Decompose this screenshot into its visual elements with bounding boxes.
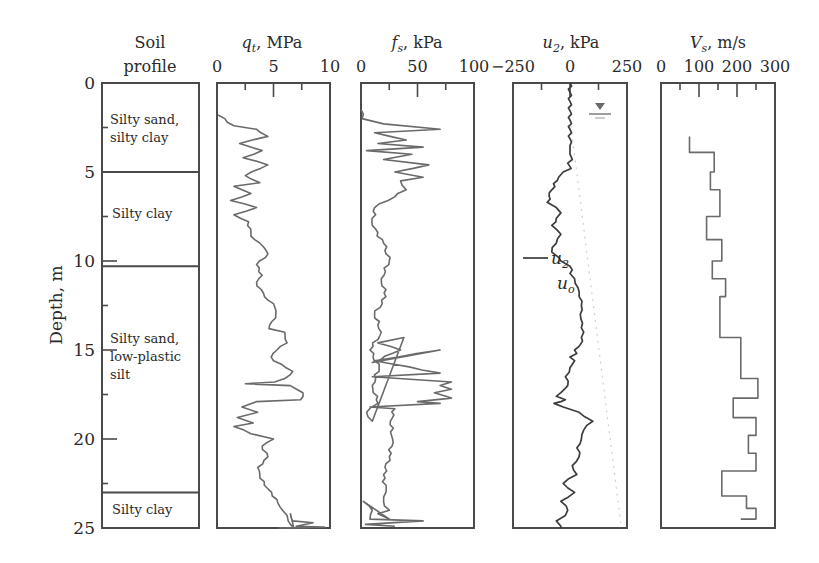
tick-label: 250 <box>612 57 643 76</box>
depth-axis-label: Depth, m <box>46 265 66 344</box>
qt-panel: qt, MPa 0510 <box>212 33 340 528</box>
fs-title: fs, kPa <box>390 33 442 55</box>
soil-layer-label: Silty sand, <box>110 112 179 127</box>
water-table-marker <box>589 103 611 118</box>
water-table-triangle-icon <box>595 103 605 110</box>
soil-layer-label: Silty clay <box>112 502 173 517</box>
vs-frame <box>661 83 775 528</box>
vs-title: Vs, m/s <box>690 33 746 55</box>
tick-label: 50 <box>407 57 427 76</box>
depth-tick-label: 10 <box>73 251 95 271</box>
tick-label: 0 <box>565 57 575 76</box>
u2-trace <box>547 83 593 528</box>
depth-tick-label: 20 <box>73 429 95 449</box>
soil-layer-label: Silty clay <box>112 206 173 221</box>
fs-axis-ticks: 050100 <box>356 57 489 97</box>
u2-legend-label: u2 <box>551 248 569 271</box>
tick-label: 100 <box>684 57 715 76</box>
vs-axis-ticks: 0100200300 <box>656 57 790 97</box>
depth-tick-label: 25 <box>73 518 95 538</box>
soil-profile-frame <box>102 83 199 528</box>
soil-layer-label: low-plastic <box>110 349 181 364</box>
uo-hydrostatic-line <box>570 119 621 528</box>
soil-title-line2: profile <box>124 57 177 76</box>
qt-axis-ticks: 0510 <box>212 57 340 97</box>
tick-label: 5 <box>268 57 278 76</box>
vs-trace <box>690 136 758 519</box>
fs-panel: fs, kPa 050100 <box>356 33 489 528</box>
depth-tick-label: 5 <box>84 162 95 182</box>
tick-label: 100 <box>459 57 490 76</box>
depth-tick-label: 15 <box>73 340 95 360</box>
qt-trace <box>218 115 324 528</box>
soil-profile-panel: Soil profile Silty sand,silty claySilty … <box>46 33 199 538</box>
tick-label: 0 <box>656 57 666 76</box>
soil-layer-label: silt <box>110 367 131 382</box>
tick-label: 10 <box>320 57 340 76</box>
tick-label: −250 <box>491 57 535 76</box>
tick-label: 0 <box>212 57 222 76</box>
depth-tick-label: 0 <box>84 73 95 93</box>
tick-label: 300 <box>760 57 791 76</box>
tick-label: 0 <box>356 57 366 76</box>
qt-title: qt, MPa <box>242 33 303 55</box>
vs-panel: Vs, m/s 0100200300 <box>656 33 790 528</box>
soil-layer-label: silty clay <box>110 130 169 145</box>
tick-label: 200 <box>722 57 753 76</box>
fs-trace <box>361 110 451 527</box>
u2-panel: u2, kPa −2500250 u2 uo <box>491 33 642 528</box>
soil-title-line1: Soil <box>135 33 166 52</box>
u2-title: u2, kPa <box>543 33 600 55</box>
soil-layer-label: Silty sand, <box>110 331 179 346</box>
cpt-log-figure: Soil profile Silty sand,silty claySilty … <box>0 0 819 563</box>
u2-legend: u2 uo <box>523 248 575 296</box>
